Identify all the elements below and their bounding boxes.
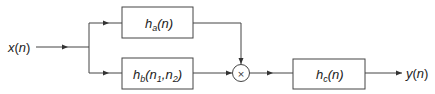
multiply-icon: × xyxy=(237,69,245,79)
block-diagram: x(n) ha(n) hb(n1,n2) × hc(n) y(n) xyxy=(0,0,435,94)
output-label: y(n) xyxy=(405,66,428,81)
input-label: x(n) xyxy=(7,40,30,55)
block-ha-label: ha(n) xyxy=(145,16,173,33)
arrow-icon xyxy=(267,71,273,76)
block-hc-label: hc(n) xyxy=(316,67,344,84)
wire-ha-to-mult xyxy=(193,23,241,64)
arrow-icon xyxy=(103,71,109,76)
arrow-icon xyxy=(239,58,244,64)
arrow-icon xyxy=(62,45,68,50)
arrow-icon xyxy=(396,71,402,76)
arrow-icon xyxy=(226,71,232,76)
arrow-icon xyxy=(103,21,109,26)
